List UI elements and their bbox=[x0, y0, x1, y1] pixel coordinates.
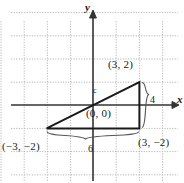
point-label-neg3-neg2: (−3, −2) bbox=[2, 141, 40, 152]
hypotenuse-label: c bbox=[93, 87, 97, 95]
coordinate-plot-svg bbox=[0, 0, 184, 183]
point-label-origin: (0, 0) bbox=[86, 108, 111, 119]
horizontal-leg-length-label: 6 bbox=[88, 144, 93, 154]
x-axis-label: x bbox=[177, 94, 183, 105]
coordinate-plane-figure: y x (3, 2) (3, −2) (−3, −2) (0, 0) c 4 6 bbox=[0, 0, 184, 183]
y-axis-arrowhead bbox=[90, 10, 97, 18]
vertical-leg-length-label: 4 bbox=[150, 95, 155, 105]
point-label-3-2: (3, 2) bbox=[108, 59, 133, 70]
point-label-3-neg2: (3, −2) bbox=[138, 137, 169, 148]
y-axis-label: y bbox=[85, 2, 90, 13]
